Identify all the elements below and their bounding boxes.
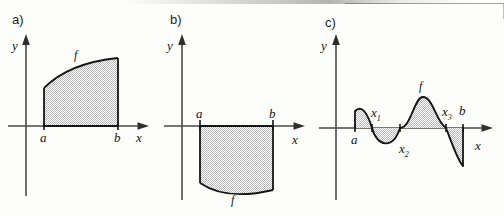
root-label-x1-sub: 1 [377,114,381,123]
x-axis-arrowhead-a [138,122,150,130]
x-axis-arrowhead-c [482,124,494,132]
limit-label-b-upper: b [269,106,276,122]
root-label-x3: x3 [442,104,452,122]
panel-c: c) y x f a b x1 x2 x3 [315,0,504,216]
limit-label-c-upper: b [459,103,466,119]
curve-label-c: f [419,79,422,94]
y-axis-label-b: y [167,38,173,54]
y-axis-arrowhead-c [332,34,340,45]
panel-label-c: c) [325,15,336,30]
panel-label-b: b) [170,12,182,27]
x-axis-label-c: x [475,138,481,154]
panel-b: b) y x f a b [160,0,315,216]
root-label-x2: x2 [399,141,409,159]
y-axis-label-c: y [321,38,327,54]
figure-canvas: a) y x f a b [0,0,504,216]
curve-label-a: f [74,48,77,63]
panel-b-plot [160,0,315,216]
limit-label-a-lower: a [40,130,47,146]
root-label-x2-sub: 2 [405,150,409,159]
limit-label-b-lower: a [196,106,203,122]
curve-label-b: f [231,193,234,208]
y-axis-arrowhead-a [22,34,30,45]
limit-label-a-upper: b [114,130,121,146]
x-axis-label-a: x [136,130,142,146]
shaded-area-b [200,126,273,194]
x-axis-arrowhead-b [294,122,306,130]
x-axis-label-b: x [292,132,298,148]
root-label-x3-sub: 3 [448,113,452,122]
y-axis-label-a: y [12,38,18,54]
root-label-x1: x1 [371,105,381,123]
panel-c-plot [315,0,504,216]
limit-label-c-lower: a [351,132,358,148]
shaded-area-a [44,58,118,126]
panel-label-a: a) [12,12,24,27]
y-axis-arrowhead-b [178,34,186,45]
panel-a: a) y x f a b [0,0,160,216]
panel-a-plot [0,0,160,216]
